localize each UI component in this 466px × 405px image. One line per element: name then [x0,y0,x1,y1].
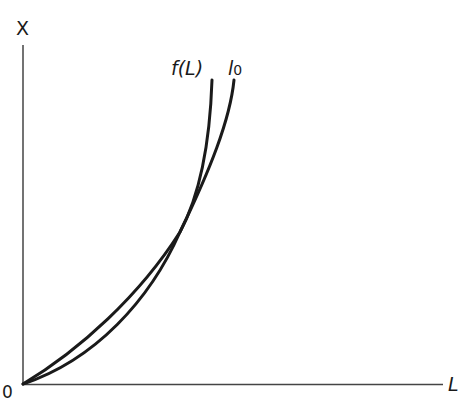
l0-label-subscript: 0 [233,62,242,78]
f-of-L-label: f(L) [171,57,203,79]
y-axis-label: X [16,17,29,39]
f-of-L-curve [23,80,212,384]
x-axis-label: L [448,373,459,395]
origin-label: 0 [2,382,13,402]
l0-curve [23,80,234,384]
diagram-canvas: X 0 L f(L) l0 [0,0,466,405]
l0-label: l0 [228,57,242,79]
